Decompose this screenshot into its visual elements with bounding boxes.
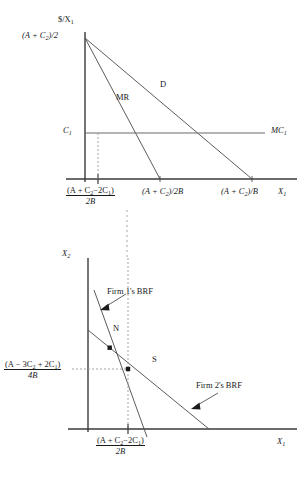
top-xtick-2-label: (A + C2)/2B bbox=[142, 187, 183, 196]
top-xtick-3-label: (A + C2)/B bbox=[221, 187, 258, 196]
firm1-brf-arrowhead bbox=[100, 304, 110, 311]
top-y-axis-label: $/X1 bbox=[58, 15, 74, 24]
firm2-brf-arrowhead bbox=[191, 403, 201, 410]
point-n-label: N bbox=[113, 324, 119, 333]
point-s-marker bbox=[126, 367, 130, 371]
firm1-brf-line bbox=[94, 290, 147, 437]
bottom-y-axis-label: X2 bbox=[62, 249, 70, 258]
firm1-brf-label: Firm 1's BRF bbox=[107, 287, 153, 296]
top-xtick-1-label: (A + C2−2C1) 2B bbox=[66, 186, 115, 206]
point-n-marker bbox=[108, 346, 112, 350]
top-x-axis-label: X1 bbox=[278, 187, 286, 196]
figure-canvas bbox=[0, 0, 302, 488]
cost-level-label: C1 bbox=[63, 126, 72, 135]
firm2-brf-line bbox=[88, 330, 209, 429]
bottom-ytick-label: (A − 3C2 + 2C1) 4B bbox=[4, 360, 61, 380]
demand-label: D bbox=[160, 80, 166, 89]
bottom-xtick-label: (A + C2−2C1) 2B bbox=[96, 436, 145, 456]
marginal-cost-label: MC1 bbox=[271, 126, 287, 135]
firm2-brf-label: Firm 2's BRF bbox=[196, 381, 242, 390]
economics-figure: $/X1 (A + C2)/2 C1 MC1 MR D (A + C2−2C1)… bbox=[0, 0, 302, 488]
top-y-intercept-label: (A + C2)/2 bbox=[22, 31, 58, 40]
marginal-revenue-label: MR bbox=[116, 93, 129, 102]
bottom-x-axis-label: X1 bbox=[277, 437, 285, 446]
marginal-revenue-curve bbox=[85, 38, 160, 179]
demand-curve bbox=[85, 38, 252, 179]
point-s-label: S bbox=[152, 355, 157, 364]
